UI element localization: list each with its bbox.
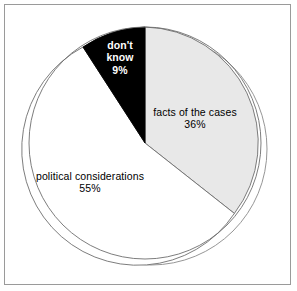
pie-label-dontknow-percent: 9%	[94, 64, 146, 76]
pie-label-facts: facts of the cases 36%	[142, 106, 248, 131]
pie-label-facts-percent: 36%	[142, 118, 248, 130]
pie-label-facts-name: facts of the cases	[142, 106, 248, 118]
pie-chart-graphic	[0, 0, 297, 291]
pie-label-dontknow: don't know 9%	[94, 39, 146, 76]
pie-label-dontknow-line1: don't	[94, 39, 146, 51]
pie-label-dontknow-line2: know	[94, 51, 146, 63]
pie-label-political-percent: 55%	[20, 182, 160, 194]
pie-label-political: political considerations 55%	[20, 170, 160, 195]
pie-chart-figure: don't know 9% facts of the cases 36% pol…	[0, 0, 297, 291]
pie-label-political-name: political considerations	[20, 170, 160, 182]
